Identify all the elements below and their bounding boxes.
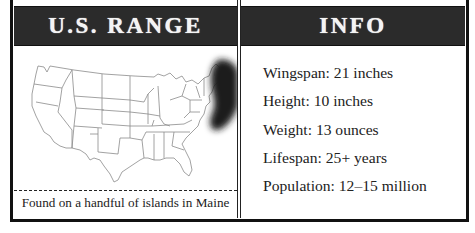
range-header: U.S. RANGE xyxy=(14,6,237,46)
range-caption: Found on a handful of islands in Maine xyxy=(14,195,237,211)
fact-height: Height: 10 inches xyxy=(263,90,427,118)
us-map xyxy=(14,46,238,188)
fact-population: Population: 12–15 million xyxy=(263,175,427,203)
info-panel: INFO Wingspan: 21 inches Height: 10 inch… xyxy=(240,0,465,218)
info-header: INFO xyxy=(241,6,465,46)
fact-weight: Weight: 13 ounces xyxy=(263,119,427,147)
fact-wingspan: Wingspan: 21 inches xyxy=(263,62,427,90)
info-facts-list: Wingspan: 21 inches Height: 10 inches We… xyxy=(263,62,427,203)
range-highlight xyxy=(210,60,238,131)
range-title: U.S. RANGE xyxy=(48,13,203,39)
range-panel: U.S. RANGE xyxy=(14,0,238,218)
fact-lifespan: Lifespan: 25+ years xyxy=(263,147,427,175)
info-title: INFO xyxy=(319,13,387,39)
caption-divider xyxy=(14,190,237,191)
